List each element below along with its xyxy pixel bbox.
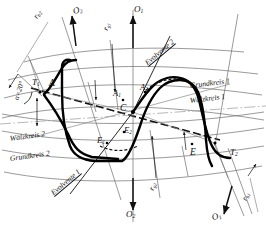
label-axis-O1-top: O1 (134, 5, 143, 15)
label-point-E: E (190, 148, 196, 158)
label-point-A1: A1 (113, 89, 121, 98)
pressure-angle-arc (24, 92, 32, 104)
label-point-A2: A2 (140, 83, 148, 92)
label-point-E1: E1 (97, 136, 105, 145)
tooth-profile-gear1-left-flank (44, 95, 118, 159)
label-point-A: A (49, 79, 55, 89)
tooth-profile-gear1-left (44, 60, 76, 94)
label-axis-O2-bottom: O2 (126, 210, 135, 220)
involute-gear-meshing-diagram: Evolvente 2 Evolvente 1 Grundkreis 1 Wäl… (0, 0, 266, 229)
label-point-T1: T1 (32, 78, 40, 88)
label-point-T2: T2 (230, 148, 238, 158)
diagram-canvas (0, 0, 266, 229)
label-point-E2: E2 (124, 126, 132, 135)
label-point-C: C (120, 104, 126, 114)
